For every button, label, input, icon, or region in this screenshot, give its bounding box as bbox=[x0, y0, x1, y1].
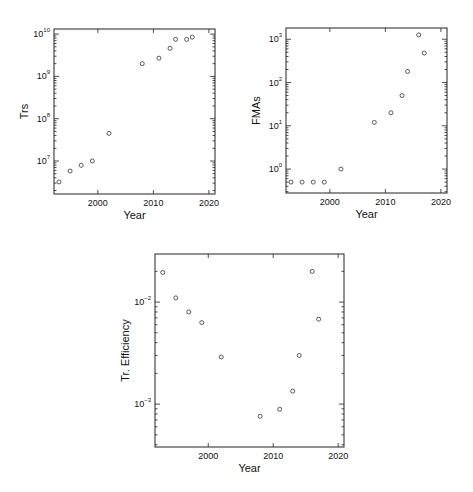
data-point bbox=[161, 270, 165, 274]
data-point bbox=[422, 51, 426, 55]
x-axis-label: Year bbox=[123, 209, 146, 221]
data-point bbox=[389, 111, 393, 115]
y-tick-exponent: 7 bbox=[47, 154, 51, 160]
y-tick-label: 10−2 bbox=[134, 295, 152, 307]
data-point bbox=[57, 180, 61, 184]
x-axis-label: Year bbox=[355, 208, 378, 220]
y-tick-base: 10 bbox=[269, 34, 279, 44]
plot-frame bbox=[54, 29, 215, 194]
y-tick-exponent: 10 bbox=[43, 27, 50, 33]
y-tick-exponent: −2 bbox=[144, 295, 152, 301]
data-point bbox=[322, 180, 326, 184]
data-point bbox=[140, 62, 144, 66]
y-tick-label: 108 bbox=[37, 112, 51, 124]
y-axis-label: Trs bbox=[18, 103, 30, 119]
data-point bbox=[174, 296, 178, 300]
y-tick-exponent: 9 bbox=[47, 69, 51, 75]
data-point bbox=[258, 414, 262, 418]
y-tick-base: 10 bbox=[134, 297, 144, 307]
data-point bbox=[90, 159, 94, 163]
y-tick-base: 10 bbox=[37, 71, 47, 81]
y-tick-label: 107 bbox=[37, 154, 51, 166]
data-point bbox=[400, 94, 404, 98]
data-point bbox=[291, 389, 295, 393]
y-tick-base: 10 bbox=[134, 399, 144, 409]
x-tick-label: 2010 bbox=[143, 198, 163, 208]
plot-frame bbox=[286, 28, 447, 193]
data-point bbox=[311, 180, 315, 184]
efficiency-chart: 20002010202010−310−2YearTr. Efficiency bbox=[119, 254, 348, 474]
data-point bbox=[79, 163, 83, 167]
x-tick-label: 2010 bbox=[263, 451, 283, 461]
data-point bbox=[372, 120, 376, 124]
y-tick-label: 109 bbox=[37, 69, 51, 81]
data-point bbox=[317, 317, 321, 321]
data-point bbox=[219, 355, 223, 359]
trs-chart: 2000201020201071081091010YearTrs bbox=[18, 27, 219, 221]
x-tick-label: 2000 bbox=[88, 198, 108, 208]
y-tick-base: 10 bbox=[269, 78, 279, 88]
data-point bbox=[289, 180, 293, 184]
plot-frame bbox=[155, 254, 344, 447]
y-axis-label: Tr. Efficiency bbox=[119, 319, 131, 382]
data-point bbox=[339, 167, 343, 171]
y-tick-base: 10 bbox=[37, 114, 47, 124]
y-tick-base: 10 bbox=[37, 156, 47, 166]
data-point bbox=[417, 33, 421, 37]
data-point bbox=[406, 69, 410, 73]
x-tick-label: 2020 bbox=[199, 198, 219, 208]
data-point bbox=[168, 46, 172, 50]
data-point bbox=[68, 169, 72, 173]
y-tick-exponent: 2 bbox=[279, 76, 283, 82]
y-tick-exponent: 8 bbox=[47, 112, 51, 118]
y-tick-base: 10 bbox=[269, 121, 279, 131]
data-point bbox=[185, 37, 189, 41]
y-tick-exponent: 1 bbox=[279, 119, 283, 125]
data-point bbox=[174, 37, 178, 41]
data-point bbox=[297, 353, 301, 357]
y-tick-label: 1010 bbox=[33, 27, 50, 39]
y-tick-label: 100 bbox=[269, 162, 283, 174]
x-tick-label: 2000 bbox=[320, 197, 340, 207]
y-tick-label: 10−3 bbox=[134, 397, 152, 409]
y-tick-base: 10 bbox=[269, 164, 279, 174]
data-point bbox=[200, 321, 204, 325]
y-tick-label: 101 bbox=[269, 119, 283, 131]
figure: 2000201020201071081091010YearTrs 2000201… bbox=[0, 0, 473, 492]
x-tick-label: 2010 bbox=[375, 197, 395, 207]
data-point bbox=[300, 180, 304, 184]
y-tick-base: 10 bbox=[33, 29, 43, 39]
data-point bbox=[107, 131, 111, 135]
y-tick-label: 102 bbox=[269, 76, 283, 88]
data-point bbox=[310, 269, 314, 273]
y-axis-label: FMAs bbox=[250, 96, 262, 125]
x-tick-label: 2020 bbox=[328, 451, 348, 461]
data-point bbox=[190, 35, 194, 39]
x-tick-label: 2020 bbox=[431, 197, 451, 207]
x-tick-label: 2000 bbox=[198, 451, 218, 461]
fmas-chart: 200020102020100101102103YearFMAs bbox=[250, 28, 451, 220]
data-point bbox=[187, 310, 191, 314]
y-tick-exponent: 3 bbox=[279, 32, 283, 38]
data-point bbox=[278, 407, 282, 411]
x-axis-label: Year bbox=[238, 462, 261, 474]
y-tick-label: 103 bbox=[269, 32, 283, 44]
y-tick-exponent: 0 bbox=[279, 162, 283, 168]
data-point bbox=[157, 56, 161, 60]
y-tick-exponent: −3 bbox=[144, 397, 152, 403]
